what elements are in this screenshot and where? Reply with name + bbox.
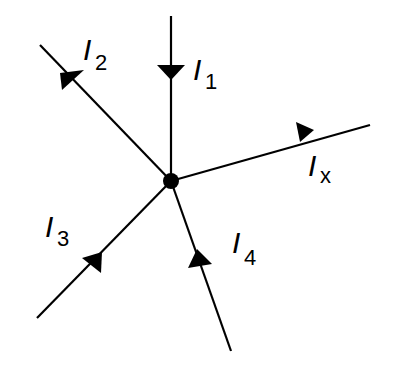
label-i3: I bbox=[45, 210, 53, 243]
label-i1-sub: 1 bbox=[205, 69, 217, 94]
label-i4: I bbox=[232, 226, 240, 259]
branch-i4-wire bbox=[171, 181, 231, 351]
kcl-node-diagram: I 2 I 1 I x I 3 I 4 bbox=[0, 0, 420, 369]
label-i2: I bbox=[83, 33, 91, 66]
label-i3-sub: 3 bbox=[57, 226, 69, 251]
arrow-ix-icon bbox=[296, 122, 314, 142]
label-ix: I bbox=[308, 149, 316, 182]
label-ix-sub: x bbox=[320, 163, 331, 188]
branch-ix-wire bbox=[171, 125, 370, 181]
label-i2-sub: 2 bbox=[95, 50, 107, 75]
arrow-i1-icon bbox=[157, 65, 185, 80]
arrow-i4-icon bbox=[188, 249, 212, 268]
label-i4-sub: 4 bbox=[244, 245, 256, 270]
junction-node bbox=[163, 173, 179, 189]
label-i1: I bbox=[193, 53, 201, 86]
